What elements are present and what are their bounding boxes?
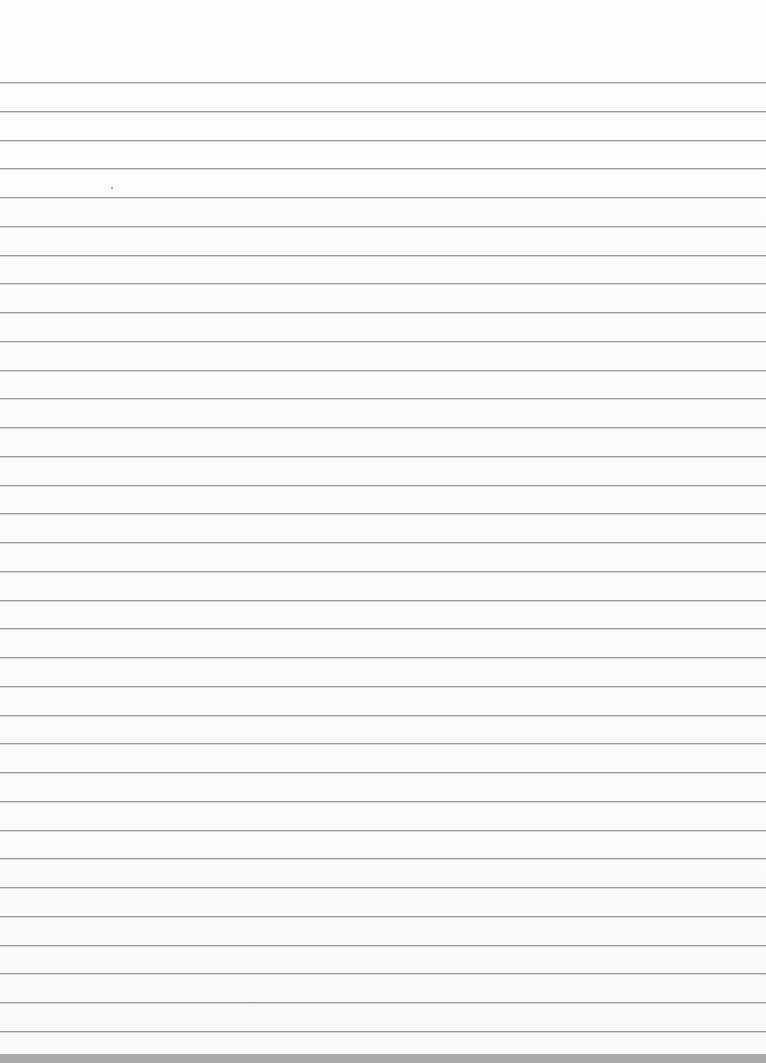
ruled-line: [0, 830, 766, 831]
ruled-line: [0, 600, 766, 601]
paper-speck: [111, 187, 113, 189]
ruled-line: [0, 398, 766, 399]
ruled-line: [0, 801, 766, 802]
ruled-line: [0, 312, 766, 313]
ruled-line: [0, 686, 766, 687]
ruled-line: [0, 456, 766, 457]
ruled-line: [0, 628, 766, 629]
ruled-line: [0, 571, 766, 572]
ruled-line: [0, 197, 766, 198]
ruled-line: [0, 82, 766, 83]
ruled-line: [0, 485, 766, 486]
ruled-line: [0, 542, 766, 543]
ruled-line: [0, 1002, 766, 1003]
ruled-line: [0, 111, 766, 112]
ruled-line: [0, 1031, 766, 1032]
ruled-line: [0, 743, 766, 744]
ruled-line: [0, 370, 766, 371]
ruled-line: [0, 858, 766, 859]
ruled-line: [0, 887, 766, 888]
ruled-line: [0, 772, 766, 773]
ruled-line: [0, 715, 766, 716]
ruled-line: [0, 945, 766, 946]
ruled-line: [0, 140, 766, 141]
ruled-line: [0, 168, 766, 169]
ruled-line: [0, 283, 766, 284]
ruled-line: [0, 255, 766, 256]
ruled-line: [0, 341, 766, 342]
ruled-line: [0, 513, 766, 514]
ruled-line: [0, 427, 766, 428]
ruled-paper-sheet: [0, 0, 766, 1054]
paper-bottom-edge: [0, 1054, 766, 1063]
ruled-line: [0, 916, 766, 917]
ruled-line: [0, 226, 766, 227]
ruled-line: [0, 657, 766, 658]
ruled-line: [0, 973, 766, 974]
